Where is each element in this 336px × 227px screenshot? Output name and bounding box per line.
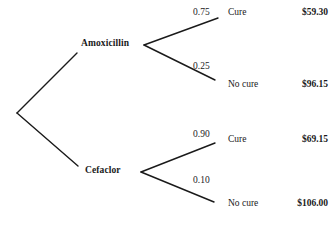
edge-root-to-amoxicillin xyxy=(17,53,77,113)
payoff-amoxicillin-cure: $59.30 xyxy=(268,7,328,17)
edge-cefaclor-to-cure xyxy=(141,143,215,172)
probability-amoxicillin-nocure: 0.25 xyxy=(193,61,210,71)
edge-root-to-cefaclor xyxy=(17,113,78,166)
edge-amoxicillin-to-cure xyxy=(144,18,218,45)
payoff-cefaclor-cure: $69.15 xyxy=(268,134,328,144)
outcome-amoxicillin-cure: Cure xyxy=(228,7,246,17)
outcome-cefaclor-nocure: No cure xyxy=(228,198,258,208)
node-label-cefaclor: Cefaclor xyxy=(85,165,121,175)
payoff-amoxicillin-nocure: $96.15 xyxy=(268,79,328,89)
tree-branch-lines xyxy=(0,0,336,227)
probability-cefaclor-cure: 0.90 xyxy=(193,129,210,139)
outcome-cefaclor-cure: Cure xyxy=(228,134,246,144)
payoff-cefaclor-nocure: $106.00 xyxy=(268,198,328,208)
probability-cefaclor-nocure: 0.10 xyxy=(193,175,210,185)
node-label-amoxicillin: Amoxicillin xyxy=(81,38,129,48)
decision-tree-diagram: Amoxicillin Cefaclor 0.75 0.25 0.90 0.10… xyxy=(0,0,336,227)
outcome-amoxicillin-nocure: No cure xyxy=(228,79,258,89)
probability-amoxicillin-cure: 0.75 xyxy=(193,7,210,17)
